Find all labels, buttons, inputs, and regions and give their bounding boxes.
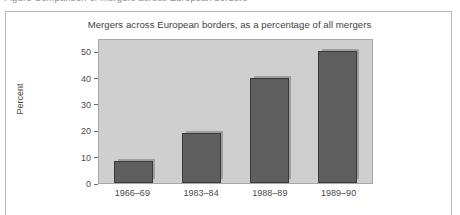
x-axis-tick-label: 1983–84 — [167, 188, 236, 198]
chart-title: Mergers across European borders, as a pe… — [6, 19, 453, 30]
bar-slot — [99, 40, 167, 183]
bar[interactable] — [250, 78, 289, 183]
bar[interactable] — [114, 161, 153, 183]
y-axis-tick-label: 30 — [81, 100, 94, 110]
y-axis-tick: 40 — [81, 74, 98, 84]
figure-caption-text: Figure Comparison of mergers across Euro… — [0, 0, 460, 4]
y-axis-tick: 50 — [81, 47, 98, 57]
bars-layer — [99, 40, 372, 183]
x-axis-tick-label: 1989–90 — [304, 188, 373, 198]
bar-slot — [236, 40, 304, 183]
y-axis-tick: 0 — [86, 179, 98, 189]
bar-slot — [167, 40, 235, 183]
y-axis-tick-label: 50 — [81, 47, 94, 57]
y-axis: Percent 01020304050 — [6, 39, 98, 185]
x-axis-tick-label: 1966–69 — [98, 188, 167, 198]
plot-panel — [98, 39, 373, 184]
figure-caption: Figure Comparison of mergers across Euro… — [0, 0, 460, 6]
y-axis-tick-label: 40 — [81, 74, 94, 84]
bar[interactable] — [318, 51, 357, 183]
bar[interactable] — [182, 133, 221, 183]
figure-frame: Mergers across European borders, as a pe… — [5, 11, 452, 215]
y-axis-tick-label: 10 — [81, 153, 94, 163]
y-axis-tick-label: 20 — [81, 126, 94, 136]
x-axis-tick-label: 1988–89 — [236, 188, 305, 198]
y-axis-tick: 30 — [81, 100, 98, 110]
y-axis-title: Percent — [15, 69, 25, 129]
bar-slot — [304, 40, 372, 183]
y-axis-tick: 20 — [81, 126, 98, 136]
x-axis: 1966–691983–841988–891989–90 — [98, 188, 373, 198]
y-axis-tick: 10 — [81, 153, 98, 163]
y-axis-tick-label: 0 — [86, 179, 94, 189]
